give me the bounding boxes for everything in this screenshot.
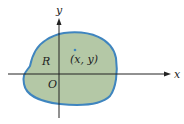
region-label: R	[41, 55, 50, 68]
region-r	[23, 32, 116, 105]
y-axis-arrow-icon	[57, 18, 62, 25]
origin-label: O	[48, 78, 57, 91]
region-diagram: x y O R (x, y)	[0, 0, 184, 124]
point-marker	[74, 49, 77, 52]
y-axis-label: y	[55, 4, 63, 17]
point-label: (x, y)	[70, 53, 98, 66]
x-axis-label: x	[174, 68, 181, 81]
x-axis-arrow-icon	[164, 72, 171, 77]
